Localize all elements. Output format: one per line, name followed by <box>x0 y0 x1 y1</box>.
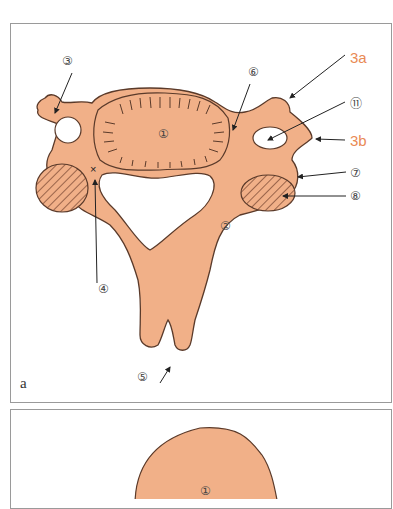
label-8: ⑧ <box>350 189 361 203</box>
label-7: ⑦ <box>350 166 361 180</box>
label-2: ② <box>220 219 231 233</box>
label-1: ① <box>158 127 169 141</box>
panel-a-letter: a <box>20 375 27 391</box>
left-articular-facet <box>36 164 88 212</box>
label-5: ⑤ <box>137 370 148 384</box>
left-transverse-foramen <box>55 117 81 143</box>
panel-b-label-1: ① <box>200 484 211 498</box>
right-articular-facet <box>241 175 295 211</box>
label-3: ③ <box>62 54 73 68</box>
label-3a: 3a <box>350 49 367 66</box>
label-11: ⑪ <box>350 97 362 111</box>
svg-text:×: × <box>90 163 96 175</box>
label-6: ⑥ <box>248 65 259 79</box>
label-4: ④ <box>98 282 109 296</box>
right-transverse-foramen <box>253 127 287 149</box>
label-3b: 3b <box>350 132 367 149</box>
